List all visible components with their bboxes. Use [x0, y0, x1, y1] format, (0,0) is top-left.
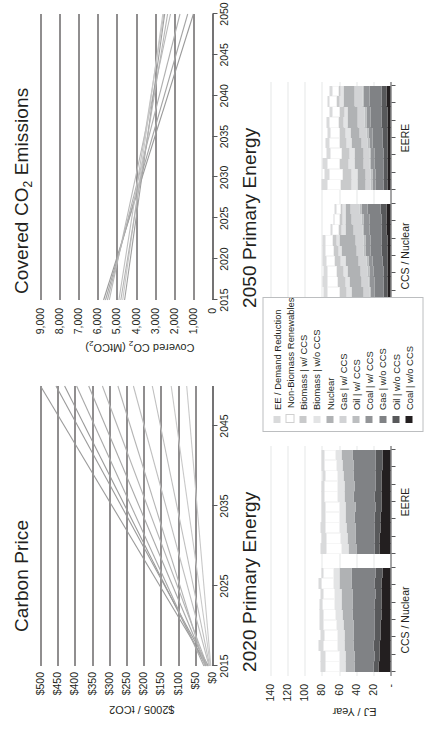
x-tick-mark — [391, 584, 395, 585]
stack-segment — [343, 470, 353, 481]
x-tick-mark — [391, 290, 395, 291]
carbon-price-plot — [40, 386, 212, 666]
stack-segment — [322, 599, 334, 610]
legend-item[interactable]: EE / Demand Reduction — [270, 307, 283, 423]
stack-segment — [340, 179, 350, 190]
x-tick-mark — [391, 654, 395, 655]
stack-segment — [357, 106, 364, 117]
stack-column — [270, 117, 390, 128]
stack-segment — [381, 470, 390, 481]
covered-co2-x-axis — [212, 14, 213, 300]
stack-column — [270, 96, 390, 107]
legend-item[interactable]: Gas | w/ CCS — [336, 307, 349, 423]
x-tick-mark — [391, 272, 395, 273]
stack-segment — [337, 491, 344, 502]
x-tick-mark — [391, 137, 395, 138]
stack-segment — [358, 256, 366, 267]
stack-segment — [353, 224, 362, 235]
x-tick-mark — [391, 518, 395, 519]
stack-segment — [381, 599, 390, 610]
stack-segment — [346, 522, 355, 533]
legend-item[interactable]: Biomass | w/o CCS — [310, 307, 323, 423]
stack-segment — [375, 588, 382, 599]
stack-segment — [335, 609, 342, 620]
stack-segment — [323, 640, 337, 651]
legend-item[interactable]: Biomass | w/ CCS — [296, 307, 309, 423]
stack-segment — [363, 224, 368, 235]
series-line — [120, 14, 167, 300]
legend-item-label: Gas | w/ CCS — [338, 353, 347, 410]
stack-segment — [339, 661, 346, 672]
stack-segment — [379, 543, 390, 554]
stack-segment — [373, 661, 378, 672]
stack-segment — [339, 138, 346, 149]
stack-segment — [330, 127, 339, 138]
stack-segment — [337, 640, 344, 651]
stack-segment — [329, 169, 342, 180]
stack-segment — [387, 127, 390, 138]
x-tick-label: 2015 — [217, 651, 229, 681]
stack-segment — [381, 96, 386, 107]
series-line — [105, 14, 187, 300]
series-line — [152, 386, 209, 666]
stack-segment — [322, 256, 325, 267]
legend-item[interactable]: Oil | w/ CCS — [349, 307, 362, 423]
covered-co2-title-suffix: Emissions — [10, 88, 31, 181]
x-tick-mark — [391, 501, 395, 502]
legend-item[interactable]: Coal | w/ CCS — [362, 307, 375, 423]
stack-segment — [353, 630, 374, 641]
stack-segment — [340, 256, 344, 267]
panel-primary-energy-2020: 2020 Primary Energy EJ / Year 1401201008… — [236, 438, 442, 728]
stack-segment — [382, 450, 390, 461]
y-tick-label: 140 — [263, 684, 275, 702]
legend-swatch-icon — [352, 416, 359, 423]
y-tick-label: 3,000 — [148, 308, 160, 334]
stack-column — [270, 106, 390, 117]
legend-item-label: Biomass | w/ CCS — [298, 335, 307, 410]
x-tick-mark — [391, 636, 395, 637]
stack-segment — [335, 450, 341, 461]
stack-segment — [387, 138, 390, 149]
stack-segment — [353, 470, 374, 481]
legend-item[interactable]: Nuclear — [323, 307, 336, 423]
stack-column — [270, 235, 390, 246]
stack-segment — [345, 512, 354, 523]
pe2050-plot — [270, 82, 390, 312]
x-tick-label: 2040 — [217, 81, 229, 111]
stack-segment — [366, 106, 370, 117]
stack-segment — [321, 179, 327, 190]
covered-co2-y-tick-labels: 9,0008,0007,0006,0005,0004,0003,0002,000… — [40, 304, 212, 342]
legend-item[interactable]: Oil | w/o CCS — [389, 307, 402, 423]
stack-segment — [352, 450, 374, 461]
stack-segment — [322, 245, 325, 256]
stack-segment — [323, 609, 335, 620]
stack-segment — [320, 630, 324, 641]
legend-item[interactable]: Coal | w/o CCS — [402, 307, 415, 423]
stack-segment — [383, 169, 387, 180]
stack-segment — [321, 491, 324, 502]
stack-segment — [374, 158, 383, 169]
y-tick-label: 40 — [349, 684, 361, 696]
legend: EE / Demand ReductionNon-Biomass Renewab… — [262, 297, 423, 432]
pe2020-title: 2020 Primary Energy — [238, 492, 260, 672]
stack-column — [270, 512, 390, 523]
legend-item[interactable]: Gas | w/o CCS — [376, 307, 389, 423]
stack-segment — [346, 138, 351, 149]
stack-column — [270, 588, 390, 599]
stack-segment — [382, 138, 386, 149]
stack-segment — [357, 117, 364, 128]
stack-segment — [345, 204, 350, 215]
legend-item-label: Non-Biomass Renewables — [285, 298, 294, 408]
covered-co2-title: Covered CO2 Emissions — [10, 88, 35, 294]
legend-item[interactable]: Non-Biomass Renewables — [283, 307, 296, 423]
stack-segment — [327, 158, 339, 169]
stack-segment — [363, 158, 369, 169]
stack-segment — [373, 640, 379, 651]
carbon-price-title: Carbon Price — [10, 520, 32, 632]
stack-column — [270, 287, 390, 298]
stack-segment — [321, 512, 325, 523]
stack-segment — [353, 460, 374, 471]
stack-segment — [327, 179, 341, 190]
stack-segment — [370, 235, 381, 246]
covered-co2-title-text: Covered CO — [10, 187, 31, 294]
